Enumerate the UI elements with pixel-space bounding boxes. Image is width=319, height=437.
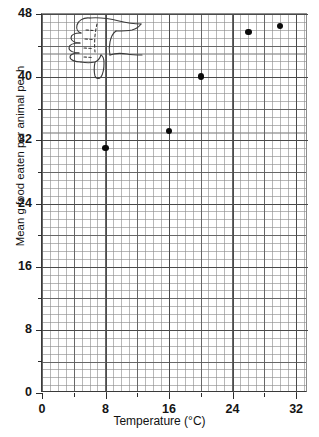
x-axis-tick <box>106 393 107 399</box>
y-axis-minor-tick <box>38 235 42 236</box>
y-axis-minor-tick <box>38 46 42 47</box>
y-axis-minor-tick <box>38 172 42 173</box>
x-axis-tick <box>42 393 43 399</box>
x-axis-minor-tick <box>137 393 138 397</box>
y-axis-tick <box>36 14 42 15</box>
data-point <box>102 145 108 151</box>
gridline-vertical <box>169 14 170 393</box>
data-point <box>198 73 204 79</box>
gridline-vertical <box>233 14 234 393</box>
data-point <box>166 128 172 134</box>
x-axis-tick-label: 8 <box>86 402 126 416</box>
x-axis-tick <box>233 393 234 399</box>
x-axis-minor-tick <box>264 393 265 397</box>
y-axis-tick-label: 0 <box>0 385 32 399</box>
x-axis-title: Temperature (°C) <box>0 414 319 428</box>
gridline-horizontal <box>42 267 308 268</box>
y-axis-tick-label: 48 <box>0 6 32 20</box>
gridline-vertical <box>106 14 107 393</box>
x-axis-tick <box>169 393 170 399</box>
y-axis-tick-label: 8 <box>0 322 32 336</box>
x-axis-minor-tick <box>201 393 202 397</box>
y-axis-tick <box>36 140 42 141</box>
gridline-horizontal <box>42 77 308 78</box>
y-axis-tick <box>36 77 42 78</box>
y-axis-tick <box>36 330 42 331</box>
x-axis-minor-tick <box>74 393 75 397</box>
gridline-horizontal <box>42 140 308 141</box>
data-point <box>245 29 251 35</box>
y-axis-minor-tick <box>38 298 42 299</box>
x-axis-tick-label: 24 <box>213 402 253 416</box>
y-axis-minor-tick <box>38 361 42 362</box>
x-axis-tick-label: 0 <box>22 402 62 416</box>
scatter-chart-figure: Mean g food eaten per animal per h Tempe… <box>0 0 319 437</box>
y-axis-tick <box>36 204 42 205</box>
y-axis-tick-label: 16 <box>0 259 32 273</box>
y-axis-tick <box>36 267 42 268</box>
x-axis-tick <box>296 393 297 399</box>
y-axis-minor-tick <box>38 109 42 110</box>
y-axis-tick-label: 24 <box>0 196 32 210</box>
plot-area: 08162432404808162432 <box>41 13 307 392</box>
y-axis-tick-label: 32 <box>0 132 32 146</box>
gridline-vertical <box>296 14 297 393</box>
data-point <box>277 23 283 29</box>
y-axis-tick-label: 40 <box>0 69 32 83</box>
x-axis-tick-label: 16 <box>149 402 189 416</box>
gridline-horizontal <box>42 330 308 331</box>
gridline-horizontal <box>42 14 308 15</box>
gridline-horizontal <box>42 204 308 205</box>
x-axis-tick-label: 32 <box>276 402 316 416</box>
